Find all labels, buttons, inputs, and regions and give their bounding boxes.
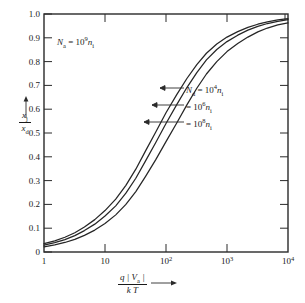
- x-tick-labels: 1 10 102 103 104: [42, 255, 295, 267]
- y-tick-label: 0.3: [29, 176, 41, 186]
- x-tick-label: 103: [221, 255, 233, 267]
- x-axis-ticks-top: [105, 14, 285, 22]
- curve-nd-1e8: [44, 23, 288, 247]
- y-tick-label: 0.2: [29, 199, 40, 209]
- curve-nd-1e6: [44, 20, 288, 245]
- y-tick-label: 0.9: [29, 33, 41, 43]
- y-tick-label: 0.4: [29, 152, 41, 162]
- x-tick-label: 1: [42, 256, 47, 266]
- x-axis-label: q | Va | k T: [118, 272, 177, 295]
- x-axis-ticks-bottom: [105, 244, 227, 252]
- curve-label-nd-1e6: = 106ni: [186, 101, 212, 115]
- y-tick-label: 0.8: [29, 57, 41, 67]
- annotation-acceptor-density: Na = 109ni: [57, 36, 94, 50]
- figure-container: 0 0.1 0.2 0.3 0.4 0.5 0.6 0.7 0.8 0.9 1.…: [0, 0, 305, 303]
- x-tick-label: 104: [282, 255, 295, 267]
- y-axis-ticks-left: [44, 14, 52, 252]
- curve-label-nd-1e8: = 108ni: [186, 118, 212, 132]
- y-axis-ticks-right: [280, 38, 288, 228]
- y-axis-label: xj xd: [12, 110, 38, 135]
- y-tick-label: 0.7: [29, 80, 41, 90]
- x-axis-arrow-icon: [151, 279, 177, 287]
- y-tick-label: 0.1: [29, 223, 40, 233]
- plot-frame: [44, 14, 288, 252]
- y-tick-label: 0: [36, 247, 41, 257]
- x-tick-label: 102: [160, 255, 172, 267]
- x-tick-label: 10: [101, 256, 111, 266]
- y-tick-label: 1.0: [29, 9, 41, 19]
- curve-nd-1e4: [44, 19, 288, 244]
- curve-label-leaders: [144, 86, 184, 125]
- chart-canvas: 0 0.1 0.2 0.3 0.4 0.5 0.6 0.7 0.8 0.9 1.…: [0, 0, 305, 303]
- curve-label-nd-1e4: Nd = 104ni: [186, 84, 223, 98]
